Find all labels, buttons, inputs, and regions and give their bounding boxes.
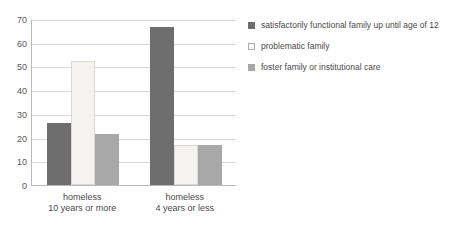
gridline: [32, 115, 236, 116]
x-axis-category-label: homeless10 years or more: [31, 192, 134, 214]
legend-swatch-icon: [248, 64, 255, 71]
category-label-line1: homeless: [134, 192, 237, 203]
gridline: [32, 91, 236, 92]
bar-chart: 010203040506070 homeless10 years or more…: [0, 0, 457, 237]
y-axis-tick-label: 10: [17, 158, 27, 167]
category-label-line2: 4 years or less: [134, 203, 237, 214]
bar: [198, 145, 222, 185]
y-axis-tick-label: 20: [17, 134, 27, 143]
legend-label: problematic family: [261, 41, 330, 51]
bar: [95, 134, 119, 185]
bar: [150, 27, 174, 185]
y-axis-tick-label: 70: [17, 16, 27, 25]
gridline: [32, 67, 236, 68]
gridline: [32, 44, 236, 45]
plot-area: 010203040506070: [31, 20, 236, 186]
category-label-line1: homeless: [31, 192, 134, 203]
y-axis-tick-label: 30: [17, 110, 27, 119]
category-label-line2: 10 years or more: [31, 203, 134, 214]
legend-item[interactable]: problematic family: [248, 41, 453, 51]
y-axis-tick-label: 50: [17, 63, 27, 72]
y-axis-tick-label: 40: [17, 87, 27, 96]
legend-item[interactable]: foster family or institutional care: [248, 62, 453, 72]
bar: [47, 123, 71, 185]
legend-swatch-icon: [248, 43, 255, 50]
bar: [71, 61, 95, 186]
gridline: [32, 20, 236, 21]
legend-item[interactable]: satisfactorily functional family up unti…: [248, 20, 453, 30]
bar: [174, 145, 198, 185]
legend-swatch-icon: [248, 22, 255, 29]
legend-label: satisfactorily functional family up unti…: [261, 20, 439, 30]
legend: satisfactorily functional family up unti…: [248, 20, 453, 83]
legend-label: foster family or institutional care: [261, 62, 381, 72]
x-axis-category-label: homeless4 years or less: [134, 192, 237, 214]
y-axis-tick-label: 60: [17, 39, 27, 48]
y-axis-tick-label: 0: [22, 182, 27, 191]
